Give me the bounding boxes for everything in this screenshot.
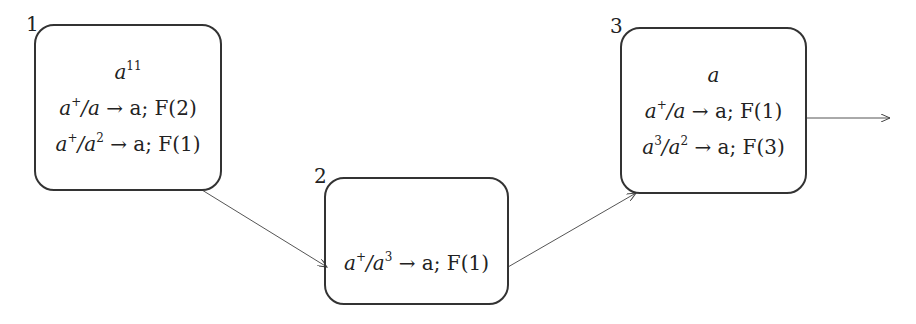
neuron-1-label: 1 (26, 14, 39, 34)
neuron-3-label: 3 (610, 16, 623, 36)
neuron-2-rule-1: a+/a3 → a; F(1) (344, 245, 489, 281)
diagram-canvas: 1 a11 a+/a → a; F(2) a+/a2 → a; F(1) 2 a… (0, 0, 916, 324)
synapse-1-to-2 (202, 190, 327, 267)
neuron-1-rule-2: a+/a2 → a; F(1) (55, 126, 200, 162)
neuron-2-label: 2 (314, 166, 327, 186)
neuron-2: a+/a3 → a; F(1) (324, 177, 509, 305)
neuron-3-spikes: a (708, 57, 720, 93)
neuron-3-rule-2: a3/a2 → a; F(3) (642, 129, 785, 165)
synapse-2-to-3 (508, 193, 636, 267)
neuron-1: a11 a+/a → a; F(2) a+/a2 → a; F(1) (34, 24, 222, 191)
neuron-1-spikes: a11 (114, 54, 141, 90)
neuron-3-rule-1: a+/a → a; F(1) (645, 93, 782, 129)
neuron-3: a a+/a → a; F(1) a3/a2 → a; F(3) (620, 27, 807, 194)
neuron-1-rule-1: a+/a → a; F(2) (59, 90, 196, 126)
